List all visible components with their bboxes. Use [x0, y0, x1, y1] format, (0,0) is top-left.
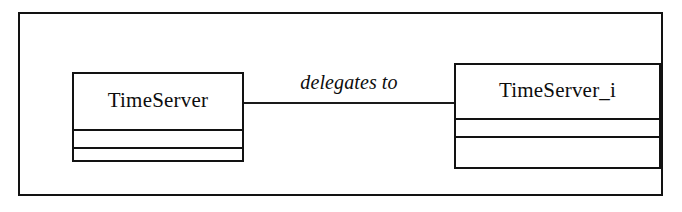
diagram-outer-frame: delegates to TimeServer TimeServer_i	[18, 12, 663, 196]
association-label-delegates-to: delegates to	[244, 71, 454, 94]
class-box-timeserver[interactable]: TimeServer	[72, 72, 244, 162]
class-box-timeserver-i[interactable]: TimeServer_i	[454, 63, 661, 169]
association-connector-line[interactable]	[242, 102, 456, 104]
class-operations-compartment-timeserver-i	[456, 138, 659, 167]
class-name-timeserver: TimeServer	[74, 74, 242, 131]
class-attributes-compartment-timeserver	[74, 131, 242, 149]
class-name-timeserver-i: TimeServer_i	[456, 65, 659, 120]
uml-class-diagram-canvas: delegates to TimeServer TimeServer_i	[0, 0, 682, 212]
class-operations-compartment-timeserver	[74, 149, 242, 160]
class-attributes-compartment-timeserver-i	[456, 120, 659, 138]
